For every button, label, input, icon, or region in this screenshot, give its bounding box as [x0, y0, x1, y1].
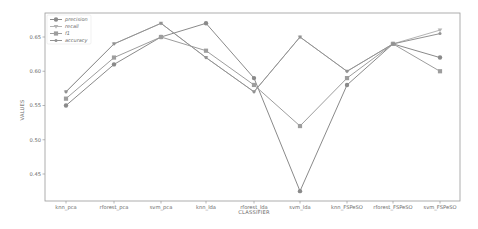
data-point-marker	[113, 42, 116, 45]
y-tick-label: 0.45	[29, 171, 41, 177]
data-point-marker	[253, 90, 256, 93]
data-point-marker	[64, 97, 68, 101]
data-point-marker	[346, 70, 349, 73]
x-tick-label: svm_pca	[150, 204, 173, 211]
y-tick-label: 0.50	[29, 137, 41, 143]
data-point-marker	[299, 36, 302, 39]
data-point-marker	[204, 49, 208, 53]
y-tick-label: 0.65	[29, 34, 41, 40]
data-point-marker	[64, 103, 68, 107]
data-point-marker	[112, 62, 116, 66]
x-tick-label: knn_pca	[55, 204, 77, 211]
legend-label: accuracy	[65, 37, 89, 44]
series-accuracy	[65, 22, 442, 94]
data-point-marker	[65, 90, 68, 93]
data-point-marker	[160, 22, 163, 25]
plot-frame	[45, 13, 460, 201]
legend-label: recall	[65, 23, 79, 29]
y-tick-label: 0.55	[29, 102, 41, 108]
data-point-marker	[252, 83, 256, 87]
line-chart: 0.450.500.550.600.65 knn_pcarforest_pcas…	[0, 0, 478, 229]
y-axis-ticks: 0.450.500.550.600.65	[29, 34, 45, 177]
x-tick-label: knn_FSPeSO	[331, 204, 363, 211]
data-point-marker	[55, 39, 58, 42]
data-point-marker	[54, 31, 58, 35]
data-point-marker	[159, 35, 163, 39]
legend-label: f1	[65, 30, 70, 36]
series-layer	[64, 21, 443, 193]
data-point-marker	[298, 189, 302, 193]
data-point-marker	[204, 21, 208, 25]
series-precision	[64, 21, 442, 193]
x-tick-label: svm_FSPeSO	[423, 204, 456, 211]
data-point-marker	[345, 76, 349, 80]
data-point-marker	[112, 55, 116, 59]
data-point-marker	[438, 55, 442, 59]
y-tick-label: 0.60	[29, 68, 41, 74]
x-tick-label: knn_lda	[196, 204, 216, 211]
x-tick-label: rforest_FSPeSO	[373, 204, 412, 211]
data-point-marker	[205, 56, 208, 59]
x-axis-label: CLASSIFIER	[238, 209, 270, 215]
data-point-marker	[345, 83, 349, 87]
legend-label: precision	[64, 16, 88, 23]
data-point-marker	[438, 69, 442, 73]
x-tick-label: svm_lda	[289, 204, 310, 211]
data-point-marker	[298, 124, 302, 128]
x-tick-label: rforest_pca	[100, 204, 129, 211]
data-point-marker	[252, 76, 256, 80]
y-axis-label: VALUES	[19, 100, 25, 121]
data-point-marker	[54, 17, 58, 21]
data-point-marker	[392, 42, 395, 45]
data-point-marker	[439, 32, 442, 35]
legend: precisionrecallf1accuracy	[47, 15, 91, 44]
